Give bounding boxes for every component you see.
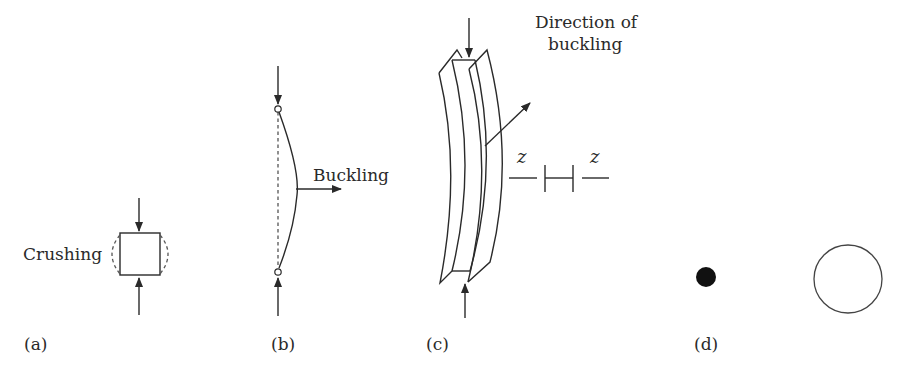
direction-label-line2: buckling [548, 34, 622, 54]
z-label-left: z [516, 146, 527, 167]
figure-canvas: Crushing (a) Buckling (b) Direction of b… [0, 0, 905, 376]
flange-left-inner [452, 60, 465, 271]
pin-bottom-icon [275, 269, 281, 275]
panel-d-sections: (d) [694, 245, 882, 354]
pin-top-icon [275, 106, 281, 112]
hollow-circle-icon [814, 245, 882, 313]
z-label-right: z [589, 146, 600, 167]
bulge-left [112, 235, 120, 274]
panel-c-label: (c) [426, 334, 449, 354]
flange-right-inner [470, 60, 486, 271]
panel-d-label: (d) [694, 334, 718, 354]
buckled-shape [279, 112, 297, 268]
direction-arrow-icon [485, 103, 530, 146]
bulge-right [160, 235, 168, 274]
panel-b-label: (b) [271, 334, 295, 354]
flange-right-back [468, 69, 482, 282]
panel-b-buckling: Buckling (b) [271, 66, 389, 354]
solid-dot-icon [696, 267, 716, 287]
flange-left-top [439, 50, 462, 73]
crushed-block [120, 233, 160, 275]
flange-left-outer [439, 73, 452, 283]
crushing-label: Crushing [23, 244, 102, 264]
panel-c-ibeam-column: Direction of buckling z z (c) [426, 12, 639, 354]
buckling-label: Buckling [313, 165, 389, 185]
cross-section: z z [509, 146, 609, 192]
panel-a-label: (a) [24, 334, 47, 354]
direction-label-line1: Direction of [535, 12, 639, 32]
panel-a-crushing: Crushing (a) [23, 198, 168, 354]
